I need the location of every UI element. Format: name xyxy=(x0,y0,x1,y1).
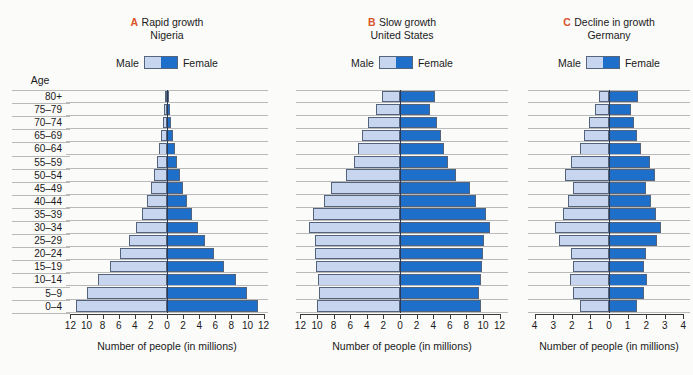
x-axis-caption: Number of people (in millions) xyxy=(528,340,690,352)
panel-header-united-states: BSlow growthUnited States xyxy=(296,16,508,42)
plot-area-nigeria xyxy=(66,90,268,313)
legend-label-female: Female xyxy=(183,57,218,69)
x-axis-tick-label: 6 xyxy=(347,320,353,332)
bar-male-80+ xyxy=(599,91,609,103)
bar-female-35-39 xyxy=(609,208,656,220)
x-axis-tick-label: 0 xyxy=(606,320,612,332)
x-axis-tick xyxy=(383,314,384,319)
age-label-35-39: 35–39 xyxy=(34,208,62,221)
bar-male-15-19 xyxy=(573,261,609,273)
x-axis-tick-label: 3 xyxy=(662,320,668,332)
pyramid-row xyxy=(296,103,508,116)
x-axis-tick xyxy=(500,314,501,319)
x-axis-tick-label: 6 xyxy=(116,320,122,332)
pyramid-row xyxy=(296,90,508,103)
x-axis-caption: Number of people (in millions) xyxy=(296,340,508,352)
x-axis-tick-label: 6 xyxy=(447,320,453,332)
bar-male-40-44 xyxy=(147,195,167,207)
x-axis-nigeria: 12108642024681012Number of people (in mi… xyxy=(66,314,268,334)
x-axis-tick-label: 2 xyxy=(180,320,186,332)
x-axis-tick xyxy=(646,314,647,319)
bar-female-75-79 xyxy=(400,104,430,116)
bar-male-65-69 xyxy=(584,130,609,142)
age-label-50-54: 50–54 xyxy=(34,169,62,182)
age-label-55-59: 55–59 xyxy=(34,156,62,169)
x-axis-tick-label: 8 xyxy=(331,320,337,332)
pyramid-row xyxy=(296,169,508,182)
age-label-0-4: 0–4 xyxy=(45,300,62,313)
x-axis-tick-label: 8 xyxy=(464,320,470,332)
x-axis-tick-label: 2 xyxy=(381,320,387,332)
bar-female-55-59 xyxy=(400,156,448,168)
bar-female-65-69 xyxy=(400,130,441,142)
x-axis-tick-label: 4 xyxy=(364,320,370,332)
population-pyramid-figure: Age 80+75–7970–7465–6960–6455–5950–5445–… xyxy=(0,0,693,375)
bar-male-15-19 xyxy=(316,261,400,273)
panel-title-row: BSlow growth xyxy=(296,16,508,29)
x-axis-tick xyxy=(483,314,484,319)
panel-title: Decline in growth xyxy=(574,16,655,28)
panel-title-row: ARapid growth xyxy=(66,16,268,29)
x-axis-tick-label: 1 xyxy=(625,320,631,332)
age-label-70-74: 70–74 xyxy=(34,116,62,129)
bar-male-20-24 xyxy=(571,248,609,260)
bar-male-20-24 xyxy=(315,248,400,260)
x-axis-tick-label: 10 xyxy=(81,320,92,332)
panel-united-states: BSlow growthUnited StatesMaleFemale12108… xyxy=(296,0,508,375)
x-axis-tick-label: 12 xyxy=(258,320,269,332)
age-axis-labels: 80+75–7970–7465–6960–6455–5950–5445–4940… xyxy=(14,90,66,313)
x-axis-united-states: 12108642024681012Number of people (in mi… xyxy=(296,314,508,334)
age-label-65-69: 65–69 xyxy=(34,129,62,142)
bar-female-45-49 xyxy=(400,182,470,194)
x-axis-tick xyxy=(300,314,301,319)
panel-title: Slow growth xyxy=(379,16,436,28)
bar-male-45-49 xyxy=(573,182,609,194)
bar-female-15-19 xyxy=(167,261,224,273)
bar-female-75-79 xyxy=(609,104,631,116)
bar-female-25-29 xyxy=(609,235,657,247)
center-axis-line xyxy=(167,90,168,313)
age-gridline-top xyxy=(12,90,70,91)
bar-male-70-74 xyxy=(589,117,609,129)
x-axis-tick-label: 12 xyxy=(65,320,76,332)
bar-male-30-34 xyxy=(136,222,167,234)
bar-female-50-54 xyxy=(400,169,456,181)
x-axis-tick-label: 3 xyxy=(550,320,556,332)
x-axis-tick-label: 10 xyxy=(242,320,253,332)
legend-label-female: Female xyxy=(625,57,660,69)
x-axis-tick-label: 1 xyxy=(588,320,594,332)
bar-female-5-9 xyxy=(609,287,644,299)
pyramid-row xyxy=(296,287,508,300)
x-axis-tick-label: 8 xyxy=(229,320,235,332)
x-axis-tick xyxy=(264,314,265,319)
bar-male-40-44 xyxy=(568,195,609,207)
x-axis-tick xyxy=(367,314,368,319)
bar-female-20-24 xyxy=(400,248,483,260)
x-axis-tick-label: 4 xyxy=(132,320,138,332)
bar-female-15-19 xyxy=(609,261,644,273)
bar-male-50-54 xyxy=(154,169,167,181)
age-label-10-14: 10–14 xyxy=(34,273,62,286)
legend-swatch-female xyxy=(603,57,619,68)
bar-female-30-34 xyxy=(167,222,198,234)
bar-male-50-54 xyxy=(565,169,609,181)
legend-swatch-female xyxy=(396,57,412,68)
panel-germany: CDecline in growthGermanyMaleFemale43210… xyxy=(528,0,690,375)
bar-female-10-14 xyxy=(167,274,236,286)
legend-label-male: Male xyxy=(116,57,139,69)
x-axis-germany: 432101234Number of people (in millions) xyxy=(528,314,690,334)
legend-swatch-male xyxy=(145,57,161,68)
x-axis-tick xyxy=(167,314,168,319)
bar-female-60-64 xyxy=(400,143,444,155)
bar-male-25-29 xyxy=(559,235,609,247)
bar-male-15-19 xyxy=(110,261,167,273)
x-axis-tick xyxy=(400,314,401,319)
legend-nigeria: MaleFemale xyxy=(66,56,268,69)
age-label-45-49: 45–49 xyxy=(34,182,62,195)
panel-subtitle: Nigeria xyxy=(66,29,268,42)
bar-male-10-14 xyxy=(570,274,609,286)
x-axis-tick xyxy=(417,314,418,319)
bar-female-55-59 xyxy=(609,156,650,168)
bar-female-25-29 xyxy=(167,235,205,247)
center-axis-line xyxy=(400,90,401,313)
